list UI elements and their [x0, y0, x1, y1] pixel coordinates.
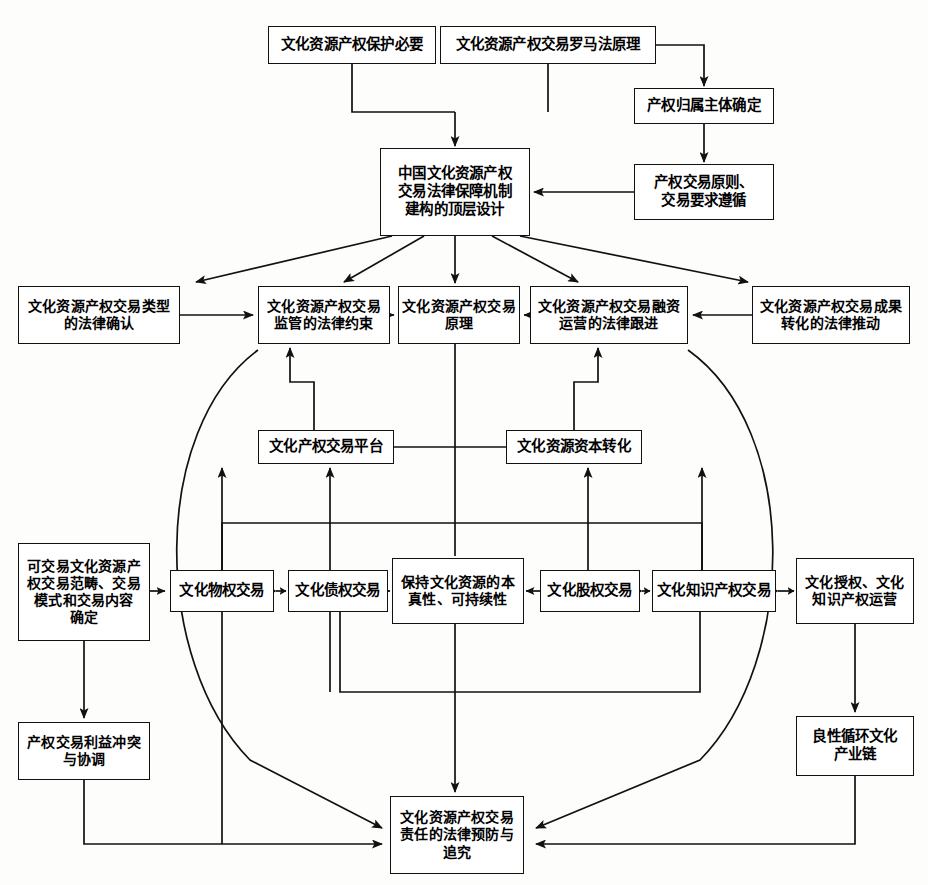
node-creditor-right-transaction[interactable]: 文化债权交易	[288, 570, 388, 612]
node-tradable-scope-mode-content[interactable]: 可交易文化资源产 权交易范畴、交易 模式和交易内容 确定	[18, 543, 150, 641]
node-authenticity-sustainability[interactable]: 保持文化资源的本 真性、可持续性	[392, 558, 524, 624]
node-achievement-transformation[interactable]: 文化资源产权交易成果 转化的法律推动	[752, 286, 910, 344]
node-protection-necessity[interactable]: 文化资源产权保护必要	[268, 26, 436, 64]
flowchart-canvas: 文化资源产权保护必要 文化资源产权交易罗马法原理 产权归属主体确定 产权交易原则…	[0, 0, 928, 885]
node-roman-law-principle[interactable]: 文化资源产权交易罗马法原理	[440, 26, 656, 64]
node-supervision-legal-constraint[interactable]: 文化资源产权交易 监管的法律约束	[258, 286, 390, 344]
node-transaction-principle[interactable]: 文化资源产权交易 原理	[398, 286, 520, 344]
node-virtuous-industry-chain[interactable]: 良性循环文化 产业链	[796, 716, 914, 776]
node-transaction-type-confirmation[interactable]: 文化资源产权交易类型 的法律确认	[18, 286, 180, 344]
node-financing-operation-followup[interactable]: 文化资源产权交易融资 运营的法律跟进	[530, 286, 688, 344]
node-liability-prevention-accountability[interactable]: 文化资源产权交易 责任的法律预防与 追究	[390, 796, 524, 874]
node-interest-conflict-coordination[interactable]: 产权交易利益冲突 与协调	[18, 722, 150, 780]
node-top-level-design[interactable]: 中国文化资源产权 交易法律保障机制 建构的顶层设计	[380, 148, 530, 236]
edge-group-fanout	[196, 236, 748, 283]
node-real-right-transaction[interactable]: 文化物权交易	[170, 570, 274, 612]
node-resource-capitalization[interactable]: 文化资源资本转化	[506, 430, 642, 464]
node-trading-principles[interactable]: 产权交易原则、 交易要求遵循	[634, 164, 774, 220]
node-cultural-property-platform[interactable]: 文化产权交易平台	[258, 430, 394, 464]
node-equity-transaction[interactable]: 文化股权交易	[540, 570, 640, 612]
node-ip-transaction[interactable]: 文化知识产权交易	[652, 570, 776, 612]
node-licensing-ip-operation[interactable]: 文化授权、文化 知识产权运营	[796, 558, 914, 624]
node-ownership-subject[interactable]: 产权归属主体确定	[634, 88, 774, 124]
